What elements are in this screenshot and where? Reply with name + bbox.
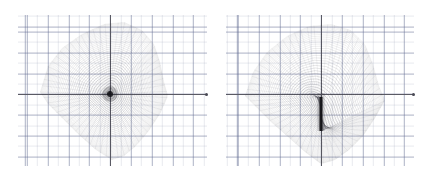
figure-container xyxy=(0,0,430,183)
mesh-left xyxy=(0,0,215,183)
plot-panel-left[interactable] xyxy=(0,0,215,183)
mesh-svg-left xyxy=(0,0,215,183)
mesh-svg-right xyxy=(215,0,430,183)
plot-panel-right[interactable] xyxy=(215,0,430,183)
mesh-right xyxy=(215,0,430,183)
